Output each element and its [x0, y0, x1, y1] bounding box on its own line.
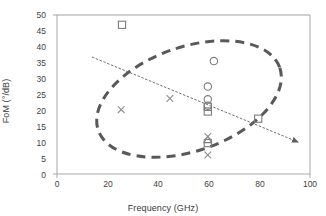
marker-circle: [210, 57, 217, 64]
marker-x: [205, 133, 212, 140]
plot-canvas: [0, 0, 326, 216]
marker-x: [205, 152, 212, 159]
marker-square: [118, 21, 125, 28]
marker-circle: [204, 83, 211, 90]
marker-x: [167, 95, 174, 102]
scatter-chart: 50 45 40 35 30 25 20 15 10 5 0 0 20 40 6…: [0, 0, 326, 216]
marker-x: [118, 106, 125, 113]
trend-arrow: [92, 57, 298, 142]
cluster-ellipse: [81, 19, 296, 180]
